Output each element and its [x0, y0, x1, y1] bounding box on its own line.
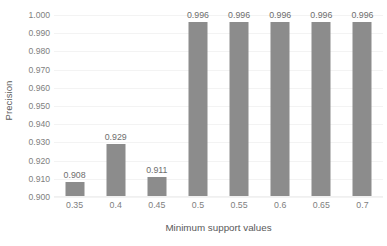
- bar-group: 0.996: [219, 15, 260, 197]
- bar[interactable]: [147, 177, 166, 197]
- y-axis-tick-label: 1.000: [28, 10, 50, 20]
- x-axis-line: [54, 196, 383, 197]
- y-axis-tick-labels: 1.0000.9900.9800.9700.9600.9500.9400.930…: [18, 15, 52, 197]
- y-axis-tick-label: 0.970: [28, 65, 50, 75]
- bar[interactable]: [312, 22, 331, 197]
- bar-group: 0.996: [177, 15, 218, 197]
- y-axis-tick-label: 0.980: [28, 46, 50, 56]
- x-axis-tick-label: 0.7: [356, 200, 368, 210]
- bar[interactable]: [65, 182, 84, 197]
- x-axis-tick-labels: 0.350.40.450.50.550.60.650.7: [54, 200, 383, 216]
- y-axis-tick-label: 0.910: [28, 174, 50, 184]
- y-axis-tick-label: 0.900: [28, 192, 50, 202]
- bar-group: 0.996: [301, 15, 342, 197]
- x-axis-tick-label: 0.5: [192, 200, 204, 210]
- x-axis-tick-label: 0.4: [110, 200, 122, 210]
- y-axis-tick-label: 0.990: [28, 28, 50, 38]
- y-axis-title-label: Precision: [4, 80, 15, 120]
- bar-data-label: 0.996: [310, 10, 332, 20]
- x-axis-tick-label: 0.45: [148, 200, 165, 210]
- x-axis-tick-label: 0.55: [231, 200, 248, 210]
- bar-data-label: 0.929: [105, 132, 127, 142]
- bar-group: 0.929: [95, 15, 136, 197]
- bar[interactable]: [188, 22, 207, 197]
- bar-group: 0.996: [342, 15, 383, 197]
- x-axis-tick-label: 0.35: [66, 200, 83, 210]
- bar-data-label: 0.996: [351, 10, 373, 20]
- precision-bar-chart: Precision 1.0000.9900.9800.9700.9600.950…: [0, 0, 387, 246]
- bar-group: 0.908: [54, 15, 95, 197]
- y-axis-tick-label: 0.930: [28, 137, 50, 147]
- plot-area: 0.9080.9290.9110.9960.9960.9960.9960.996: [54, 15, 383, 197]
- y-axis-tick-label: 0.940: [28, 119, 50, 129]
- bar-data-label: 0.996: [228, 10, 250, 20]
- y-axis-title: Precision: [0, 0, 18, 200]
- bar[interactable]: [271, 22, 290, 197]
- x-axis-title: Minimum support values: [54, 222, 383, 233]
- gridline: [54, 197, 383, 198]
- bar-group: 0.996: [260, 15, 301, 197]
- bar[interactable]: [106, 144, 125, 197]
- bar[interactable]: [353, 22, 372, 197]
- bar-data-label: 0.908: [64, 170, 86, 180]
- bar-data-label: 0.911: [146, 165, 167, 175]
- x-axis-tick-label: 0.6: [274, 200, 286, 210]
- y-axis-tick-label: 0.960: [28, 83, 50, 93]
- x-axis-tick-label: 0.65: [313, 200, 330, 210]
- bar-group: 0.911: [136, 15, 177, 197]
- bar[interactable]: [230, 22, 249, 197]
- bar-data-label: 0.996: [269, 10, 291, 20]
- y-axis-tick-label: 0.920: [28, 156, 50, 166]
- y-axis-tick-label: 0.950: [28, 101, 50, 111]
- bar-data-label: 0.996: [187, 10, 209, 20]
